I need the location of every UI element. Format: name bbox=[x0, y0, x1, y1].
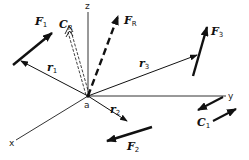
F1-label: F1 bbox=[34, 15, 47, 29]
C1-arrow-a bbox=[198, 97, 223, 110]
origin-label: a bbox=[84, 100, 90, 110]
labels: F1 CR FR F3 r1 r3 r2 F2 C1 bbox=[34, 14, 223, 154]
z-axis-label: z bbox=[85, 1, 90, 11]
F2-force-arrow bbox=[107, 127, 152, 141]
r1-label: r1 bbox=[47, 61, 57, 75]
r2-label: r2 bbox=[110, 103, 120, 117]
C1-arrow-b bbox=[213, 109, 236, 121]
F3-force-arrow bbox=[193, 27, 207, 76]
F3-label: F3 bbox=[210, 25, 223, 39]
FR-label: FR bbox=[123, 14, 137, 28]
CR-resultant-couple bbox=[65, 26, 89, 95]
CR-label: CR bbox=[59, 18, 73, 32]
y-axis-label: y bbox=[228, 91, 234, 101]
x-axis bbox=[16, 96, 88, 140]
FR-resultant-force-arrow bbox=[88, 16, 118, 96]
force-system-diagram: z y x a F1 CR FR bbox=[0, 0, 249, 160]
C1-label: C1 bbox=[197, 116, 210, 130]
x-axis-label: x bbox=[9, 138, 15, 148]
r3-label: r3 bbox=[139, 57, 149, 71]
forces bbox=[13, 16, 207, 141]
r2-vector bbox=[88, 96, 127, 121]
F2-label: F2 bbox=[126, 140, 139, 154]
